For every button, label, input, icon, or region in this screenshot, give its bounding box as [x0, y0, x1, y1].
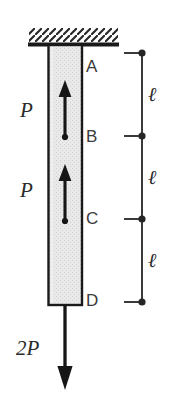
arrow-tail-dot [62, 134, 68, 140]
node-label-c: C [86, 210, 98, 227]
mechanics-figure-bar-with-axial-loads: A B C D P P 2P ℓ ℓ ℓ [0, 0, 176, 410]
dimension-chain-group [124, 49, 146, 305]
dimension-tick-dot [138, 215, 145, 222]
support-hatching [29, 28, 118, 42]
force-label-p-upper: P [20, 100, 33, 121]
dimension-label-segment-2: ℓ [148, 167, 156, 187]
dimension-tick-dot [138, 132, 145, 139]
dimension-tick-dot [138, 298, 145, 305]
node-label-d: D [86, 292, 98, 309]
dimension-label-segment-3: ℓ [148, 250, 156, 270]
arrow-head [57, 366, 72, 390]
force-label-p-lower: P [20, 180, 33, 201]
arrow-tail-dot [62, 218, 68, 224]
fixed-support-group [28, 28, 119, 45]
end-load-arrow [57, 305, 72, 390]
node-label-a: A [86, 58, 97, 75]
dimension-tick-dot [138, 49, 145, 56]
node-label-b: B [86, 128, 97, 145]
force-label-2p: 2P [16, 338, 39, 359]
dimension-label-segment-1: ℓ [148, 84, 156, 104]
